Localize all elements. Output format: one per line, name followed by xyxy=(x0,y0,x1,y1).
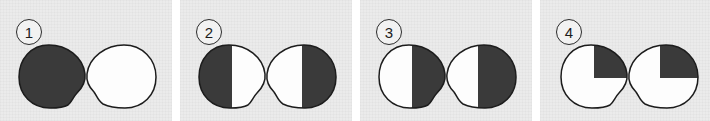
shape-pair-2 xyxy=(180,44,352,110)
panel-2: 2 xyxy=(180,0,352,121)
panel-number-label: 3 xyxy=(385,25,393,40)
blob-left-dark-left-half xyxy=(196,44,272,110)
panel-gap xyxy=(172,0,180,121)
blob-left-dark-right-half xyxy=(376,44,452,110)
blob-right-dark-upper-right-quadrant xyxy=(626,44,702,110)
blob-left-dark-upper-right-quadrant xyxy=(558,44,634,110)
panel-number-badge-1: 1 xyxy=(16,19,42,45)
panel-number-badge-2: 2 xyxy=(196,19,222,45)
blob-left-full-dark xyxy=(16,44,92,110)
panel-number-label: 1 xyxy=(25,25,33,40)
panel-number-badge-4: 4 xyxy=(556,19,582,45)
panel-3: 3 xyxy=(360,0,532,121)
blob-right-dark-right-half xyxy=(444,44,520,110)
shape-pair-4 xyxy=(540,44,710,110)
panel-number-label: 4 xyxy=(565,25,573,40)
blob-right-full-light xyxy=(84,44,160,110)
panel-gap xyxy=(532,0,540,121)
blob-right-dark-right-half xyxy=(264,44,340,110)
panel-gap xyxy=(352,0,360,121)
panel-number-badge-3: 3 xyxy=(376,19,402,45)
panel-4: 4 xyxy=(540,0,710,121)
panel-1: 1 xyxy=(0,0,172,121)
shape-pair-1 xyxy=(0,44,172,110)
panel-number-label: 2 xyxy=(205,25,213,40)
shape-pair-3 xyxy=(360,44,532,110)
